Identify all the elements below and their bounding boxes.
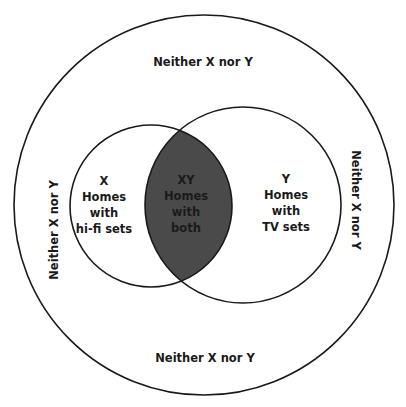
intersection-line-4: both <box>171 221 201 235</box>
universe-label-right: Neither X nor Y <box>349 150 363 250</box>
universe-label-bottom: Neither X nor Y <box>155 351 255 365</box>
intersection-line-2: Homes <box>164 189 208 203</box>
set-y-line-3: with <box>272 204 300 218</box>
universe-label-left: Neither X nor Y <box>47 180 61 280</box>
set-x-line-2: Homes <box>82 190 126 204</box>
intersection-line-1: XY <box>177 173 195 187</box>
set-y-line-4: TV sets <box>262 220 310 234</box>
set-y-label: Y Homes with TV sets <box>262 172 310 234</box>
intersection-line-3: with <box>172 205 200 219</box>
set-x-line-4: hi-fi sets <box>76 222 133 236</box>
venn-diagram: Neither X nor Y Neither X nor Y Neither … <box>0 0 406 407</box>
set-y-line-1: Y <box>281 172 291 186</box>
set-x-line-1: X <box>100 174 109 188</box>
universe-label-top: Neither X nor Y <box>153 55 253 69</box>
set-x-line-3: with <box>90 206 118 220</box>
set-x-label: X Homes with hi-fi sets <box>76 174 133 236</box>
set-y-line-2: Homes <box>264 188 308 202</box>
